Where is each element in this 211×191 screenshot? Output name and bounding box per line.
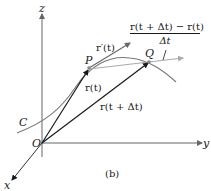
point-q bbox=[147, 60, 151, 64]
point-q-label: Q bbox=[145, 48, 154, 59]
difference-quotient-numerator: r(t + Δt) − r(t) bbox=[130, 21, 200, 34]
curve-c-label: C bbox=[19, 117, 27, 128]
y-axis-label: y bbox=[203, 138, 209, 149]
position-vector-r-t bbox=[42, 70, 88, 143]
difference-quotient-label: r(t + Δt) − r(t) Δt bbox=[130, 21, 200, 46]
point-p-label: P bbox=[85, 55, 92, 66]
fraction-pointer bbox=[163, 50, 166, 60]
z-axis-label: z bbox=[39, 3, 45, 14]
r-t-dt-label: r(t + Δt) bbox=[100, 102, 143, 112]
x-axis-label: x bbox=[4, 180, 10, 191]
origin-label: O bbox=[32, 138, 41, 149]
curve-c bbox=[17, 57, 176, 133]
r-prime-label: r′(t) bbox=[96, 43, 115, 53]
difference-quotient-denominator: Δt bbox=[130, 34, 200, 46]
r-t-label: r(t) bbox=[85, 83, 102, 93]
figure-caption: (b) bbox=[105, 169, 119, 179]
